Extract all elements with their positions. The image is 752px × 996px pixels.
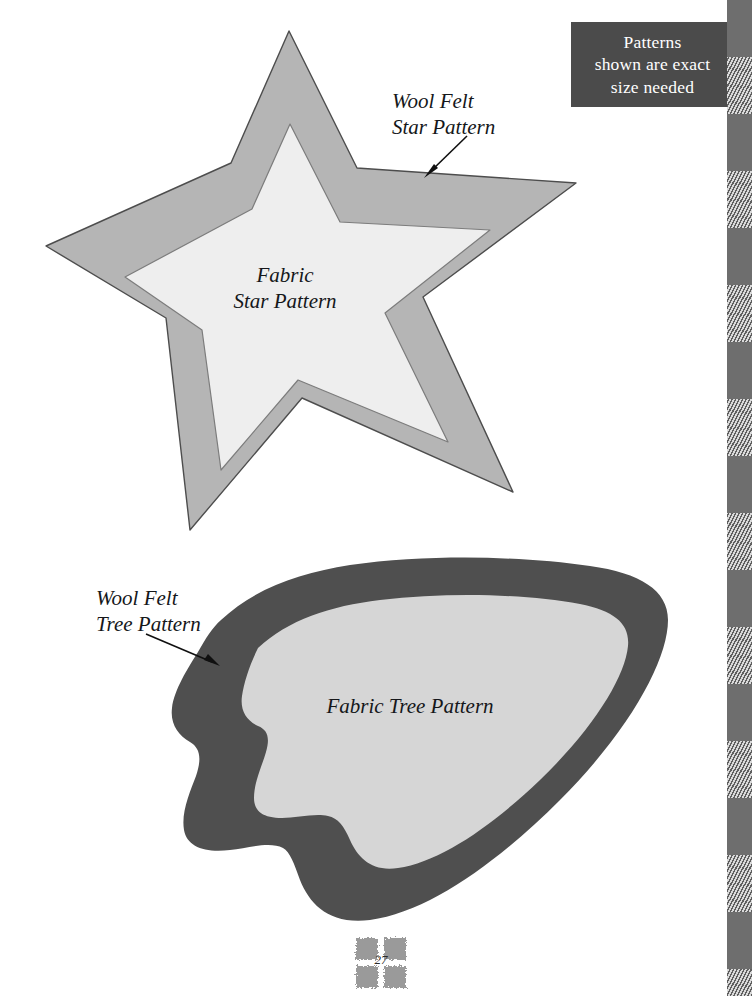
wool-felt-tree-label-line-2: Tree Pattern — [96, 611, 201, 637]
plaid-block-solid — [727, 114, 752, 171]
fabric-star-label: Fabric Star Pattern — [233, 262, 336, 314]
plaid-block-hatched — [727, 627, 752, 684]
plaid-block-solid — [727, 912, 752, 969]
page-number: 27 — [350, 952, 412, 968]
plaid-block-hatched — [727, 741, 752, 798]
plaid-block-solid — [727, 570, 752, 627]
plaid-block-solid — [727, 798, 752, 855]
pattern-page: Wool Felt Star Pattern Fabric Star Patte… — [0, 0, 752, 996]
plaid-border-strip — [727, 0, 752, 996]
wool-felt-star-label-line-1: Wool Felt — [392, 88, 495, 114]
wool-felt-star-label-line-2: Star Pattern — [392, 114, 495, 140]
fabric-tree-label: Fabric Tree Pattern — [326, 693, 493, 719]
plaid-block-solid — [727, 342, 752, 399]
tree-pattern-group — [0, 0, 752, 996]
fabric-star-label-line-1: Fabric — [233, 262, 336, 288]
plaid-block-solid — [727, 0, 752, 57]
note-line-2: shown are exact — [595, 53, 711, 75]
plaid-block-hatched — [727, 57, 752, 114]
plaid-block-hatched — [727, 969, 752, 996]
fabric-star-label-line-2: Star Pattern — [233, 288, 336, 314]
plaid-block-hatched — [727, 285, 752, 342]
note-line-3: size needed — [611, 76, 694, 98]
exact-size-note-box: Patterns shown are exact size needed — [571, 22, 734, 107]
plaid-block-solid — [727, 684, 752, 741]
ornament-square-br — [384, 966, 406, 988]
plaid-block-hatched — [727, 855, 752, 912]
wool-felt-tree-label-line-1: Wool Felt — [96, 585, 201, 611]
plaid-block-solid — [727, 456, 752, 513]
note-line-1: Patterns — [624, 31, 682, 53]
wool-felt-star-label: Wool Felt Star Pattern — [392, 88, 495, 140]
plaid-block-hatched — [727, 399, 752, 456]
ornament-square-bl — [356, 966, 378, 988]
wool-felt-tree-label: Wool Felt Tree Pattern — [96, 585, 201, 637]
plaid-block-hatched — [727, 513, 752, 570]
fabric-tree-label-line-1: Fabric Tree Pattern — [326, 693, 493, 719]
plaid-block-hatched — [727, 171, 752, 228]
plaid-block-solid — [727, 228, 752, 285]
